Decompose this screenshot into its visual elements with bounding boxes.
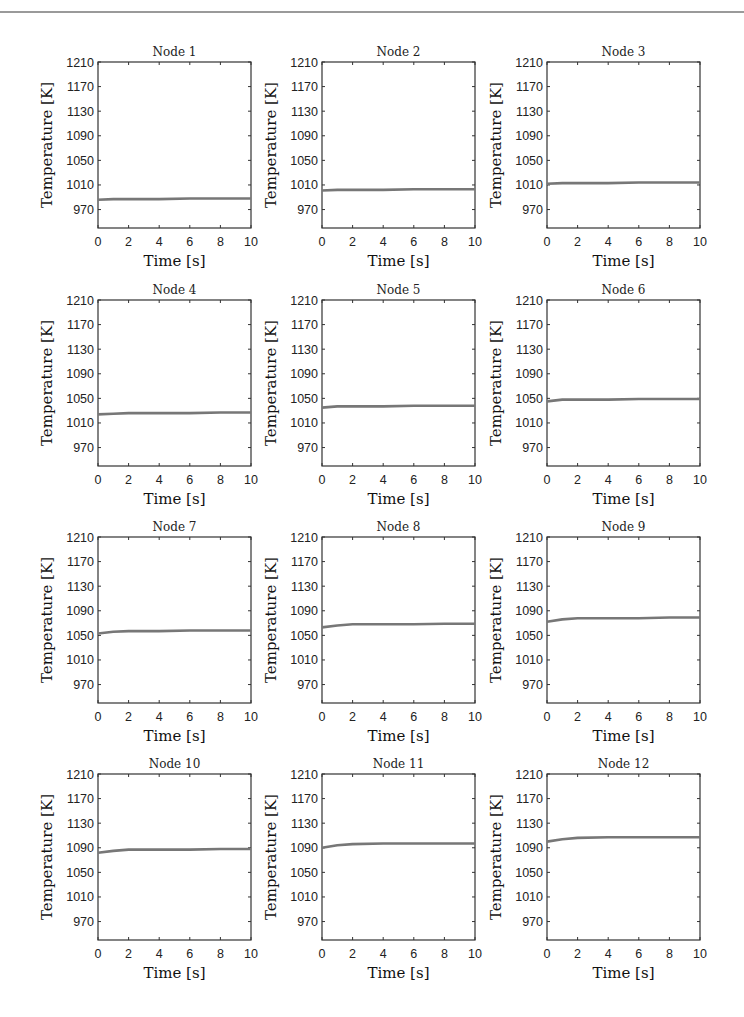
y-tick-label: 1210 [515,531,543,545]
y-tick-label: 1050 [66,629,94,643]
x-axis-label: Time [s] [592,727,654,745]
x-tick-label: 10 [693,235,707,249]
y-tick-label: 1130 [67,817,94,831]
x-tick-label: 10 [468,473,482,487]
axes-box [98,62,251,228]
x-tick-label: 4 [605,473,612,487]
x-axis-label: Time [s] [367,490,429,508]
y-tick-label: 1090 [66,841,94,855]
y-tick-label: 1130 [516,817,543,831]
x-tick-label: 8 [441,947,448,961]
x-tick-label: 8 [217,947,224,961]
y-tick-label: 1050 [66,154,94,168]
temperature-line [98,413,251,415]
axes-box [98,300,251,466]
temperature-line [547,837,700,841]
x-tick-label: 0 [95,235,102,249]
x-axis-label: Time [s] [143,490,205,508]
y-tick-label: 1210 [290,56,318,70]
x-tick-label: 2 [574,235,581,249]
y-tick-label: 970 [522,441,543,455]
y-tick-label: 1050 [290,629,318,643]
x-tick-label: 0 [95,947,102,961]
y-tick-label: 1170 [291,318,318,332]
x-tick-label: 8 [666,235,673,249]
temperature-line [98,849,251,853]
x-tick-label: 6 [635,235,642,249]
y-axis-label: Temperature [K] [487,320,505,446]
y-tick-label: 1170 [516,318,543,332]
y-axis-label: Temperature [K] [262,794,280,920]
x-tick-label: 0 [95,710,102,724]
y-tick-label: 1010 [290,178,318,192]
subplot-title: Node 3 [602,45,646,59]
axes-box [98,537,251,703]
x-tick-label: 4 [156,473,163,487]
x-tick-label: 0 [95,473,102,487]
y-tick-label: 1210 [515,56,543,70]
axes-box [322,300,475,466]
x-tick-label: 2 [574,473,581,487]
subplot-title: Node 8 [377,520,421,534]
subplot-title: Node 7 [153,520,197,534]
y-tick-label: 1090 [515,604,543,618]
x-tick-label: 2 [574,710,581,724]
y-tick-label: 1210 [515,294,543,308]
y-tick-label: 970 [522,678,543,692]
x-tick-label: 4 [380,710,387,724]
y-tick-label: 970 [73,915,94,929]
x-tick-label: 2 [349,947,356,961]
x-tick-label: 8 [441,710,448,724]
x-tick-label: 0 [544,473,551,487]
subplot-node-11: Node 11970101010501090113011701210024681… [262,757,482,982]
y-tick-label: 1090 [290,367,318,381]
y-tick-label: 970 [73,441,94,455]
y-tick-label: 1210 [66,56,94,70]
x-tick-label: 4 [156,710,163,724]
temperature-line [98,199,251,200]
y-tick-label: 1090 [290,604,318,618]
y-tick-label: 1010 [66,178,94,192]
y-tick-label: 1130 [67,580,94,594]
temperature-line [547,183,700,184]
y-tick-label: 1050 [290,866,318,880]
y-tick-label: 1130 [516,343,543,357]
x-tick-label: 10 [693,710,707,724]
y-axis-label: Temperature [K] [38,320,56,446]
y-tick-label: 1010 [515,653,543,667]
subplot-title: Node 12 [598,757,650,771]
y-tick-label: 1170 [67,555,94,569]
subplot-grid: Node 19701010105010901130117012100246810… [0,0,744,1017]
subplot-title: Node 5 [377,283,421,297]
x-tick-label: 6 [410,473,417,487]
x-tick-label: 8 [666,947,673,961]
y-tick-label: 970 [73,678,94,692]
x-tick-label: 10 [244,947,258,961]
x-tick-label: 8 [441,235,448,249]
x-tick-label: 10 [693,473,707,487]
x-tick-label: 4 [380,235,387,249]
y-axis-label: Temperature [K] [487,82,505,208]
y-tick-label: 1090 [66,129,94,143]
x-axis-label: Time [s] [592,490,654,508]
y-tick-label: 1090 [515,129,543,143]
temperature-line [98,631,251,634]
x-axis-label: Time [s] [592,252,654,270]
y-axis-label: Temperature [K] [262,82,280,208]
x-tick-label: 2 [349,473,356,487]
y-tick-label: 1130 [291,105,318,119]
y-tick-label: 1010 [290,416,318,430]
y-tick-label: 1130 [291,343,318,357]
x-tick-label: 0 [319,710,326,724]
axes-box [322,774,475,940]
subplot-title: Node 9 [602,520,646,534]
x-tick-label: 10 [468,235,482,249]
x-tick-label: 6 [635,947,642,961]
x-tick-label: 10 [468,710,482,724]
y-tick-label: 1010 [290,653,318,667]
y-tick-label: 1170 [291,792,318,806]
x-tick-label: 8 [217,473,224,487]
temperature-line [322,189,475,190]
temperature-line [547,399,700,401]
temperature-line [322,844,475,848]
